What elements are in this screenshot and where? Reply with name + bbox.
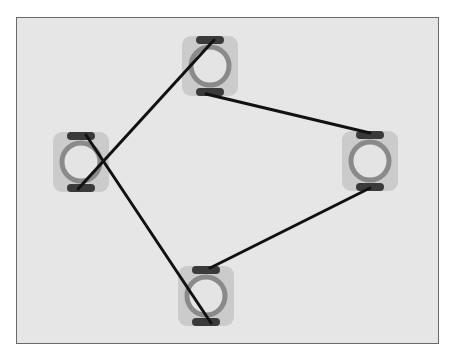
node-left[interactable] [53,132,109,192]
edge-right-bottom[interactable] [210,188,370,268]
edge-left-bottom[interactable] [86,135,211,323]
ring-icon [351,142,389,180]
edge-top-right[interactable] [206,94,370,133]
graph-canvas [0,0,454,361]
node-right[interactable] [342,131,398,191]
edge-top-left[interactable] [78,40,214,189]
ring-icon [191,47,229,85]
top-connector-pad[interactable] [192,266,220,274]
bottom-connector-pad[interactable] [192,318,220,326]
top-connector-pad[interactable] [67,132,95,140]
